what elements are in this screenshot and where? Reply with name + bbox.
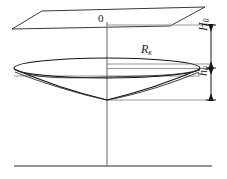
depth-subscript: 0 [202, 66, 211, 70]
head-H0-label: H0 [196, 19, 211, 31]
horizontal-reference-plane [12, 7, 205, 29]
head-symbol: H [196, 22, 210, 31]
origin-label: 0 [98, 12, 104, 24]
radius-subscript: к [148, 48, 151, 57]
diagram-svg [0, 0, 227, 179]
depth-h0-label: h0 [196, 66, 211, 76]
radius-label: Rк [141, 42, 152, 57]
figure-canvas: 0 Rк H0 h0 [0, 0, 227, 179]
depth-symbol: h [196, 70, 210, 76]
head-subscript: 0 [202, 19, 211, 23]
